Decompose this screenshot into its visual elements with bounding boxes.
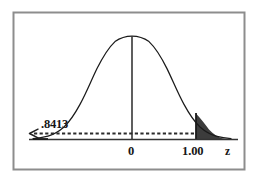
mean-tick-label: 0 xyxy=(128,145,134,158)
z-axis-name-label: z xyxy=(225,146,230,158)
z-tick-label: 1.00 xyxy=(182,145,203,158)
area-probability-label: .8413 xyxy=(41,118,68,131)
normal-distribution-figure: .8413 0 1.00 z xyxy=(0,0,257,182)
